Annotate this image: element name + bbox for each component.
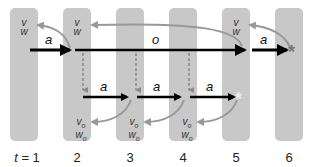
timestep-label-6: 6 (269, 150, 309, 165)
feedback-arrow-5-4 (198, 100, 237, 122)
feedback-arrow-2-1 (38, 25, 70, 48)
terminal-asterisk-5: * (235, 89, 242, 110)
option-label: o (152, 33, 159, 46)
action-label-1-2: a (45, 33, 52, 46)
timestep-label-3: 3 (110, 150, 150, 165)
timestep-label-2: 2 (57, 150, 97, 165)
state-vw-5: v w (229, 18, 243, 36)
feedback-arrow-4-3 (145, 100, 184, 122)
terminal-asterisk-6: * (288, 42, 295, 63)
state-vw-1: v w (17, 18, 31, 36)
timestep-label-4: 4 (163, 150, 203, 165)
state-vowo-3: vo wo (127, 117, 141, 143)
state-vowo-4: vo wo (180, 117, 194, 143)
feedback-arrow-3-2 (92, 100, 131, 122)
action-label-3-4: a (153, 80, 160, 93)
action-label-4-5: a (206, 80, 213, 93)
timestep-label-5: 5 (216, 150, 256, 165)
state-vw-2: v w (70, 18, 84, 36)
action-label-5-6: a (260, 33, 267, 46)
feedback-arrow-6-5 (250, 25, 290, 47)
timestep-label-1: t = 1 (2, 150, 52, 165)
action-label-2-3: a (100, 80, 107, 93)
state-vowo-2: vo wo (74, 117, 88, 143)
feedback-arrow-5-2 (92, 24, 242, 46)
